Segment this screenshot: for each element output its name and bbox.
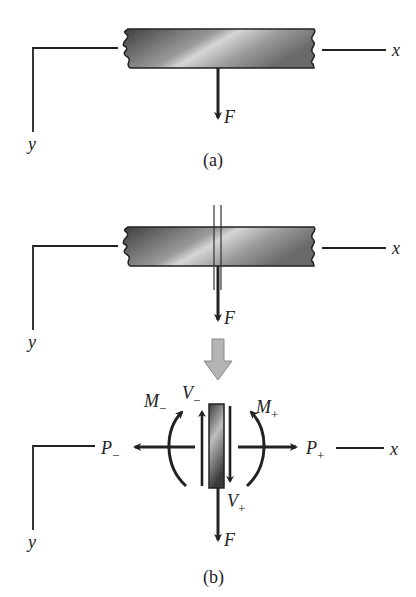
P-minus-label: P− [100, 438, 119, 463]
beam-segment [123, 29, 315, 68]
M-minus-label: M− [143, 391, 166, 416]
force-label: F [223, 530, 236, 550]
y-axis-label: y [26, 332, 36, 352]
y-axis-line [33, 446, 95, 530]
caption-b: (b) [203, 567, 224, 588]
M-minus-arrow [169, 412, 186, 486]
V-minus-label: V− [182, 383, 200, 408]
block-arrow-down [204, 339, 232, 380]
beam-section [209, 404, 224, 488]
M-plus-arrow [247, 412, 264, 486]
y-axis-line [33, 48, 118, 132]
x-axis-label: x [391, 238, 400, 258]
M-plus-label: M+ [255, 397, 278, 422]
x-axis-label: x [389, 439, 398, 459]
x-axis-label: x [391, 40, 400, 60]
panel-a: F x y (a) [26, 29, 400, 171]
y-axis-line [33, 246, 118, 330]
y-axis-label: y [26, 134, 36, 154]
beam-segment [123, 227, 315, 266]
force-label: F [223, 308, 236, 328]
force-label: F [223, 107, 236, 127]
panel-b: P− P+ V− V+ M− M+ F x y (b) [26, 383, 398, 588]
y-axis-label: y [26, 532, 36, 552]
panel-cut: F x y [26, 205, 400, 352]
P-plus-label: P+ [305, 438, 324, 463]
free-body-diagram: F x y (a) F x y P− P+ V− V+ M− M+ [0, 0, 416, 597]
caption-a: (a) [203, 150, 223, 171]
V-plus-label: V+ [227, 491, 245, 516]
